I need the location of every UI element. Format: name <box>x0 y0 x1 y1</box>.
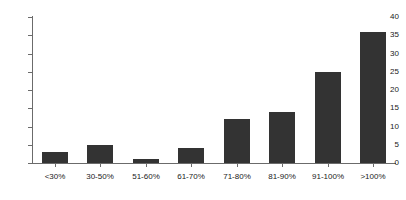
x-axis-tick <box>55 163 56 167</box>
bar <box>42 152 68 163</box>
bar <box>360 32 386 163</box>
x-axis-tick <box>237 163 238 167</box>
x-axis-tick <box>100 163 101 167</box>
bar <box>178 148 204 163</box>
plot-area <box>32 17 396 163</box>
x-axis-tick-label: 51-60% <box>132 173 160 181</box>
x-axis-tick <box>282 163 283 167</box>
x-axis-tick-label: 61-70% <box>177 173 205 181</box>
x-axis-tick <box>373 163 374 167</box>
x-axis-tick-label: <30% <box>45 173 66 181</box>
bar <box>224 119 250 163</box>
x-axis-tick-label: 81-90% <box>268 173 296 181</box>
x-axis-line <box>32 163 396 164</box>
bar-chart: 0510152025303540 <30%30-50%51-60%61-70%7… <box>0 0 406 200</box>
bar <box>87 145 113 163</box>
bar <box>269 112 295 163</box>
bar <box>315 72 341 163</box>
bar <box>133 159 159 163</box>
x-axis-tick <box>146 163 147 167</box>
x-axis-tick <box>191 163 192 167</box>
x-axis-tick-label: >100% <box>360 173 385 181</box>
x-axis-tick-label: 30-50% <box>86 173 114 181</box>
y-axis-tick <box>28 163 32 164</box>
x-axis-tick-label: 91-100% <box>312 173 344 181</box>
x-axis-tick <box>328 163 329 167</box>
x-axis-tick-label: 71-80% <box>223 173 251 181</box>
